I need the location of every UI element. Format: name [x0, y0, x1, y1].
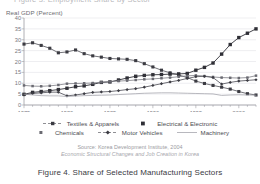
legend-label-motor-vehicles: Motor Vehicles: [122, 129, 163, 136]
svg-text:1995: 1995: [190, 110, 202, 113]
svg-text:35: 35: [15, 26, 21, 32]
source-line-title: Economic Structural Changes and Job Crea…: [0, 151, 260, 158]
legend-label-textiles-apparels: Textiles & Apparels: [67, 120, 119, 127]
chart-legend: Textiles & Apparels Electrical & Electro…: [0, 120, 260, 136]
svg-text:30: 30: [15, 37, 21, 43]
svg-text:1980: 1980: [61, 110, 73, 113]
legend-item-textiles-apparels[interactable]: Textiles & Apparels: [43, 120, 119, 127]
legend-row-1: Textiles & Apparels Electrical & Electro…: [36, 120, 225, 127]
legend-item-machinery[interactable]: Machinery: [177, 129, 230, 136]
legend-row-2: Chemicals Motor Vehicles Machinery: [24, 129, 236, 136]
plot-area: 0510152025303540197519801985199019952000: [0, 14, 260, 112]
legend-label-machinery: Machinery: [201, 129, 230, 136]
legend-key-machinery-icon: [177, 129, 197, 136]
svg-text:20: 20: [15, 59, 21, 65]
legend-item-motor-vehicles[interactable]: Motor Vehicles: [98, 129, 163, 136]
source-block: Source: Korea Development Institute, 200…: [0, 144, 260, 157]
svg-text:2000: 2000: [233, 110, 245, 113]
legend-label-chemicals: Chemicals: [55, 129, 84, 136]
cropped-header-text: Figure 3. Employment Share by Sector: [0, 0, 260, 9]
figure-root: Figure 3. Employment Share by Sector Rea…: [0, 0, 260, 184]
source-line-institute: Source: Korea Development Institute, 200…: [0, 144, 260, 151]
svg-text:1990: 1990: [147, 110, 159, 113]
legend-key-textiles-apparels-icon: [43, 120, 63, 127]
svg-text:1985: 1985: [104, 110, 116, 113]
svg-text:10: 10: [15, 80, 21, 86]
legend-label-electrical-electronic: Electrical & Electronic: [157, 120, 217, 127]
svg-text:0: 0: [18, 102, 21, 108]
legend-key-electrical-electronic-icon: [133, 120, 153, 127]
svg-text:40: 40: [15, 15, 21, 21]
legend-key-chemicals-icon: [31, 129, 51, 136]
legend-item-chemicals[interactable]: Chemicals: [31, 129, 84, 136]
svg-text:1975: 1975: [18, 110, 30, 113]
legend-item-electrical-electronic[interactable]: Electrical & Electronic: [133, 120, 217, 127]
svg-text:25: 25: [15, 48, 21, 54]
svg-text:15: 15: [15, 69, 21, 75]
legend-key-motor-vehicles-icon: [98, 129, 118, 136]
svg-text:5: 5: [18, 91, 21, 97]
line-chart: 0510152025303540197519801985199019952000: [0, 14, 260, 112]
cropped-header-label: Figure 3. Employment Share by Sector: [14, 0, 150, 4]
figure-caption: Figure 4. Share of Selected Manufacturin…: [0, 168, 260, 177]
